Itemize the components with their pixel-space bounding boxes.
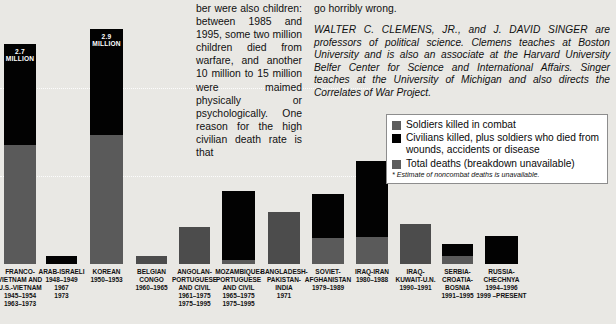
bar: [485, 236, 518, 264]
bar: [312, 194, 344, 264]
bar-segment-soldiers: [90, 135, 123, 264]
legend-swatch-black-icon: [392, 134, 401, 143]
bar-caption-line: 1967: [36, 284, 87, 292]
bar-caption-line: CHECHNYA: [475, 276, 528, 284]
bar-segment-civilians: [442, 244, 473, 256]
bar-segment-total: [400, 224, 431, 264]
legend-item: Total deaths (breakdown unavailable): [392, 158, 601, 170]
bar-caption-line: 1999 –PRESENT: [475, 292, 528, 300]
bar-caption-line: 1963–1973: [0, 300, 46, 308]
bar: 2.9MILLION: [90, 29, 123, 264]
author-names: WALTER C. CLEMENS, JR., and J. DAVID SIN…: [314, 24, 588, 35]
article-column-middle: ber were also children: between 1985 and…: [196, 2, 302, 159]
bar: [136, 256, 167, 264]
legend-swatch-gray-icon: [392, 121, 401, 130]
bar: [356, 161, 388, 264]
article-column-right: go horribly wrong. WALTER C. CLEMENS, JR…: [314, 2, 610, 100]
bar-segment-total: [268, 212, 300, 264]
bar-segment-soldiers: [442, 256, 473, 264]
bar-segment-soldiers: [356, 237, 388, 264]
bar: [222, 191, 255, 264]
bar-segment-civilians: [46, 256, 77, 264]
bar-segment-soldiers: [4, 145, 36, 264]
bar: [46, 256, 77, 264]
bar: [400, 224, 431, 264]
legend-swatch-total-icon: [392, 160, 401, 169]
bar: [442, 244, 473, 264]
bar-segment-soldiers: [222, 260, 255, 264]
bar-segment-civilians: [222, 191, 255, 260]
bar-segment-total: [179, 227, 210, 264]
bar-value-label: 2.9MILLION: [90, 33, 123, 48]
bar-caption: RUSSIA-CHECHNYA1994–19961999 –PRESENT: [475, 268, 528, 300]
bar-segment-total: [136, 256, 167, 264]
legend-footnote: * Estimate of noncombat deaths is unavai…: [392, 171, 601, 180]
bar-value-label: 2.7MILLION: [4, 48, 36, 63]
bar: 2.7MILLION: [4, 44, 36, 264]
bar: [179, 227, 210, 264]
legend-rows: Soldiers killed in combatCivilians kille…: [392, 119, 601, 170]
legend-item-label: Total deaths (breakdown unavailable): [406, 158, 575, 170]
legend-item-label: Soldiers killed in combat: [406, 119, 516, 131]
chart-legend: Soldiers killed in combatCivilians kille…: [386, 114, 608, 184]
bar-caption-line: RUSSIA-: [475, 268, 528, 276]
bar-caption-line: 1994–1996: [475, 284, 528, 292]
bar-segment-civilians: [312, 194, 344, 238]
bar-caption-line: 1971: [258, 292, 310, 300]
infographic-page: 2.7MILLION2.9MILLION FRANCO-VIETNAM ANDU…: [0, 0, 616, 324]
bar-caption-line: 1979–1989: [302, 284, 354, 292]
article-paragraph-middle: ber were also children: between 1985 and…: [196, 2, 302, 159]
legend-item: Soldiers killed in combat: [392, 119, 601, 131]
bar-segment-soldiers: [312, 238, 344, 264]
bar-segment-civilians: [485, 236, 518, 264]
bar-segment-civilians: [356, 161, 388, 237]
article-paragraph-right-top: go horribly wrong.: [314, 2, 610, 15]
bar-caption-line: 1975–1995: [212, 300, 265, 308]
legend-item-label: Civilians killed, plus soldiers who died…: [406, 132, 601, 156]
bar-caption-line: 1973: [36, 292, 87, 300]
legend-item: Civilians killed, plus soldiers who died…: [392, 132, 601, 156]
author-bio: WALTER C. CLEMENS, JR., and J. DAVID SIN…: [314, 24, 610, 100]
bar: [268, 212, 300, 264]
author-bio-rest: are professors of political science. Cle…: [314, 24, 610, 98]
